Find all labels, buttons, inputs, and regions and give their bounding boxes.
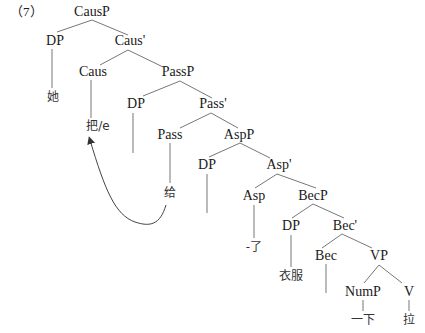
node-bec-bar: Bec' [333, 218, 357, 234]
leaf-ta: 她 [47, 90, 59, 104]
node-asp-bar: Asp' [266, 157, 291, 173]
leaf-le: -了 [246, 240, 262, 254]
leaf-la: 拉 [403, 313, 415, 327]
node-dp: DP [127, 96, 145, 112]
node-dp: DP [282, 218, 300, 234]
node-causp: CausP [74, 4, 110, 20]
node-nump: NumP [345, 284, 381, 300]
node-dp: DP [198, 157, 216, 173]
node-vp: VP [370, 248, 388, 264]
node-v: V [404, 284, 414, 300]
movement-arrow [90, 140, 166, 224]
leaf-yixia: 一下 [351, 313, 375, 327]
node-dp: DP [46, 33, 64, 49]
node-asp: Asp [243, 188, 266, 204]
node-pass: Pass [158, 127, 183, 143]
node-becp: BecP [298, 188, 328, 204]
leaf-yifu: 衣服 [279, 269, 303, 283]
node-bec: Bec [315, 248, 337, 264]
node-pass-bar: Pass' [199, 96, 226, 112]
example-number: （7） [10, 4, 43, 20]
node-caus: Caus [79, 64, 107, 80]
leaf-ba-e: 把/e [86, 119, 109, 133]
leaf-gei: 给 [164, 186, 176, 200]
node-aspp: AspP [224, 127, 254, 143]
node-passp: PassP [162, 64, 195, 80]
node-caus-bar: Caus' [115, 33, 146, 49]
